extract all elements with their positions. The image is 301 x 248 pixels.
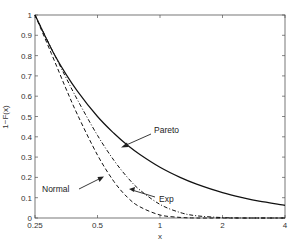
series-lines xyxy=(35,15,285,218)
series-pareto-line xyxy=(35,15,285,205)
annotation-exp: Exp xyxy=(129,187,174,204)
y-tick-label: 0.2 xyxy=(21,173,33,182)
chart: 00.10.20.30.40.50.60.70.80.91 0.250.5124… xyxy=(0,0,301,248)
exp-arrow-icon xyxy=(132,190,155,197)
y-tick-label: 1 xyxy=(28,11,33,20)
annotation-normal: Normal xyxy=(42,177,104,195)
y-tick-label: 0.9 xyxy=(21,31,33,40)
series-exp-line xyxy=(35,15,285,218)
x-tick-label: 1 xyxy=(158,221,163,230)
y-tick-label: 0.4 xyxy=(21,133,33,142)
x-tick-label: 4 xyxy=(283,221,288,230)
pareto-label: Pareto xyxy=(154,125,179,135)
x-axis: 0.250.5124 xyxy=(27,15,288,230)
y-tick-label: 0.7 xyxy=(21,72,33,81)
x-tick-label: 2 xyxy=(220,221,225,230)
x-tick-label: 0.25 xyxy=(27,221,43,230)
x-axis-label: x xyxy=(158,232,162,241)
exp-arrowhead-icon xyxy=(129,187,135,192)
y-tick-label: 0.6 xyxy=(21,92,33,101)
normal-label: Normal xyxy=(42,184,70,194)
normal-arrowhead-icon xyxy=(98,177,105,183)
annotation-pareto: Pareto xyxy=(121,125,179,148)
y-tick-label: 0.3 xyxy=(21,153,33,162)
x-tick-label: 0.5 xyxy=(92,221,104,230)
y-tick-label: 0.5 xyxy=(21,113,33,122)
plot-frame xyxy=(35,15,285,218)
pareto-arrow-icon xyxy=(124,134,151,146)
y-axis-label: 1−F(x) xyxy=(1,105,10,129)
plot-area xyxy=(35,15,285,218)
exp-label: Exp xyxy=(159,194,174,204)
normal-arrow-icon xyxy=(79,178,101,189)
y-tick-label: 0.1 xyxy=(21,194,33,203)
y-tick-label: 0.8 xyxy=(21,52,33,61)
series-normal-line xyxy=(35,15,285,218)
